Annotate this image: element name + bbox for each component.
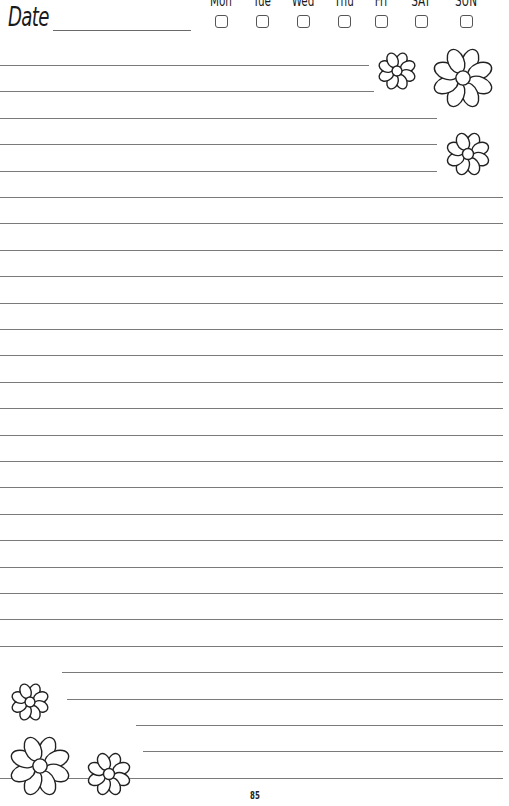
writing-line[interactable] (0, 250, 503, 251)
flower-icon (438, 124, 498, 184)
writing-line[interactable] (0, 223, 503, 224)
writing-line[interactable] (0, 144, 437, 145)
day-tue: Tue (242, 0, 282, 28)
day-checkbox-wed[interactable] (297, 15, 310, 28)
writing-line[interactable] (0, 487, 503, 488)
writing-line[interactable] (0, 540, 503, 541)
day-thu: Thu (324, 0, 364, 28)
day-checkbox-mon[interactable] (215, 15, 228, 28)
date-label: Date (8, 2, 49, 32)
flower-icon (2, 728, 78, 804)
day-mon: Mon (201, 0, 241, 28)
day-checkbox-thu[interactable] (338, 15, 351, 28)
page-number: 85 (245, 790, 266, 801)
writing-line[interactable] (0, 276, 503, 277)
writing-line[interactable] (0, 118, 437, 119)
writing-line[interactable] (0, 382, 503, 383)
writing-line[interactable] (62, 672, 503, 673)
writing-line[interactable] (0, 91, 374, 92)
flower-icon (372, 46, 422, 96)
writing-line[interactable] (0, 619, 503, 620)
writing-line[interactable] (0, 567, 503, 568)
writing-line[interactable] (67, 699, 503, 700)
day-checkbox-sun[interactable] (460, 15, 473, 28)
writing-line[interactable] (0, 197, 503, 198)
writing-line[interactable] (0, 329, 503, 330)
day-wed: Wed (283, 0, 323, 28)
day-label: SUN (453, 0, 479, 9)
day-checkbox-tue[interactable] (256, 15, 269, 28)
flower-icon (80, 745, 138, 803)
writing-line[interactable] (0, 408, 503, 409)
day-checkbox-sat[interactable] (415, 15, 428, 28)
writing-line[interactable] (143, 751, 503, 752)
writing-line[interactable] (0, 355, 503, 356)
day-fri: Fri (361, 0, 401, 28)
writing-line[interactable] (0, 461, 503, 462)
writing-line[interactable] (0, 646, 503, 647)
day-label: Wed (290, 0, 316, 9)
writing-line[interactable] (0, 593, 503, 594)
day-label: Fri (368, 0, 394, 9)
writing-line[interactable] (0, 65, 369, 66)
flower-icon (4, 676, 56, 728)
date-line[interactable] (53, 30, 191, 31)
writing-line[interactable] (0, 435, 503, 436)
writing-line[interactable] (0, 171, 437, 172)
day-label: SAT (408, 0, 434, 9)
day-sat: SAT (401, 0, 441, 28)
day-label: Tue (249, 0, 275, 9)
day-label: Mon (208, 0, 234, 9)
writing-line[interactable] (0, 514, 503, 515)
writing-line[interactable] (136, 725, 503, 726)
day-sun: SUN (446, 0, 486, 28)
flower-icon (425, 40, 501, 116)
writing-line[interactable] (0, 303, 503, 304)
day-checkbox-fri[interactable] (375, 15, 388, 28)
day-label: Thu (331, 0, 357, 9)
